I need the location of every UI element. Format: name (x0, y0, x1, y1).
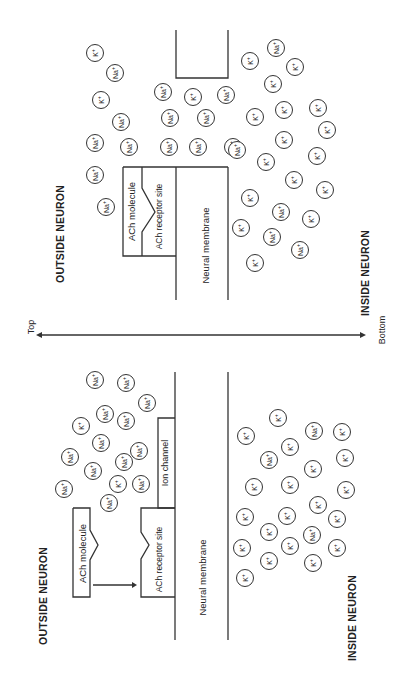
potassium-ion: K+ (328, 510, 346, 528)
ion-symbol: K+ (241, 513, 249, 521)
ion-symbol: K+ (342, 486, 350, 494)
sodium-ion: Na+ (55, 480, 73, 498)
sodium-ion: Na+ (217, 86, 235, 104)
ion-symbol: Na+ (233, 144, 241, 156)
ion-symbol: K+ (251, 113, 259, 121)
ion-symbol: K+ (323, 126, 331, 134)
membrane-label-top: Neural membrane (200, 206, 211, 286)
sodium-ion: Na+ (96, 405, 114, 423)
ion-symbol: K+ (265, 528, 273, 536)
ion-symbol: Na+ (202, 112, 210, 124)
potassium-ion: K+ (236, 569, 254, 587)
potassium-ion: K+ (184, 88, 202, 106)
ion-symbol: Na+ (166, 112, 174, 124)
sodium-ion: Na+ (61, 448, 79, 466)
sodium-ion: Na+ (112, 113, 130, 131)
potassium-ion: K+ (302, 210, 320, 228)
sodium-ion: Na+ (117, 412, 135, 430)
potassium-ion: K+ (92, 91, 110, 109)
sodium-ion: Na+ (154, 83, 172, 101)
potassium-ion: K+ (316, 181, 334, 199)
ion-symbol: K+ (314, 501, 322, 509)
ion-symbol: K+ (290, 176, 298, 184)
ion-symbol: Na+ (120, 456, 128, 468)
outside-neuron-label-top: OUTSIDE NEURON (54, 184, 66, 284)
neuron-diagram: Top Bottom OUTSIDE NEURON INSIDE NEURON … (0, 0, 397, 676)
ion-symbol: K+ (246, 57, 254, 65)
ion-symbol: K+ (97, 96, 105, 104)
potassium-ion: K+ (233, 539, 251, 557)
ion-symbol: Na+ (143, 397, 151, 409)
ion-symbol: Na+ (308, 529, 316, 541)
ion-symbol: K+ (189, 93, 197, 101)
sodium-ion: Na+ (86, 371, 104, 389)
ach-molecule-label-bottom: ACh molecule (77, 519, 88, 589)
ion-symbol: K+ (333, 515, 341, 523)
sodium-ion: Na+ (197, 109, 215, 127)
ion-symbol: K+ (114, 480, 122, 488)
sodium-ion: Na+ (260, 451, 278, 469)
ion-symbol: Na+ (125, 141, 133, 153)
ion-symbol: Na+ (66, 451, 74, 463)
potassium-ion: K+ (246, 254, 264, 272)
potassium-ion: K+ (260, 552, 278, 570)
receptor-site-label-bottom: ACh receptor site (155, 525, 164, 595)
outside-neuron-label-bottom: OUTSIDE NEURON (37, 546, 49, 646)
potassium-ion: K+ (333, 423, 351, 441)
ion-symbol: K+ (246, 194, 254, 202)
potassium-ion: K+ (246, 108, 264, 126)
sodium-ion: Na+ (117, 374, 135, 392)
potassium-ion: K+ (308, 147, 326, 165)
sodium-ion: Na+ (138, 394, 156, 412)
ion-symbol: K+ (251, 259, 259, 267)
potassium-ion: K+ (275, 131, 293, 149)
ion-symbol: Na+ (268, 231, 276, 243)
ion-symbol: K+ (250, 483, 258, 491)
ion-symbol: Na+ (117, 116, 125, 128)
ion-symbol: Na+ (111, 67, 119, 79)
potassium-ion: K+ (245, 478, 263, 496)
ion-symbol: K+ (283, 512, 291, 520)
ion-symbol: K+ (309, 465, 317, 473)
ion-symbol: K+ (241, 574, 249, 582)
ach-molecule-label-top: ACh molecule (126, 177, 137, 247)
axis-bottom-label: Bottom (377, 310, 387, 350)
ion-symbol: K+ (333, 544, 341, 552)
sodium-ion: Na+ (92, 434, 110, 452)
sodium-ion: Na+ (160, 138, 178, 156)
sodium-ion: Na+ (97, 198, 115, 216)
potassium-ion: K+ (264, 75, 282, 93)
potassium-ion: K+ (281, 438, 299, 456)
ion-channel-label: Ion channel (160, 433, 170, 493)
ion-symbol: K+ (291, 63, 299, 71)
sodium-ion: Na+ (303, 526, 321, 544)
ion-symbol: Na+ (105, 497, 113, 509)
potassium-ion: K+ (241, 52, 259, 70)
ion-symbol: K+ (274, 414, 282, 422)
ion-symbol: Na+ (272, 42, 280, 54)
potassium-ion: K+ (257, 153, 275, 171)
potassium-ion: K+ (237, 427, 255, 445)
sodium-ion: Na+ (263, 228, 281, 246)
potassium-ion: K+ (318, 121, 336, 139)
ion-symbol: Na+ (101, 408, 109, 420)
inside-neuron-label-bottom: INSIDE NEURON (346, 573, 358, 663)
inside-neuron-label-top: INSIDE NEURON (359, 228, 371, 318)
membrane-label-bottom: Neural membrane (197, 538, 208, 618)
potassium-ion: K+ (232, 219, 250, 237)
ion-symbol: K+ (321, 186, 329, 194)
ion-symbol: K+ (286, 542, 294, 550)
sodium-ion: Na+ (100, 494, 118, 512)
ion-symbol: Na+ (91, 374, 99, 386)
ion-symbol: K+ (265, 557, 273, 565)
potassium-ion: K+ (309, 99, 327, 117)
potassium-ion: K+ (286, 58, 304, 76)
sodium-ion: Na+ (161, 109, 179, 127)
potassium-ion: K+ (275, 101, 293, 119)
potassium-ion: K+ (72, 417, 90, 435)
sodium-ion: Na+ (84, 462, 102, 480)
potassium-ion: K+ (285, 171, 303, 189)
ion-symbol: K+ (341, 454, 349, 462)
sodium-ion: Na+ (86, 166, 104, 184)
ion-symbol: K+ (242, 432, 250, 440)
